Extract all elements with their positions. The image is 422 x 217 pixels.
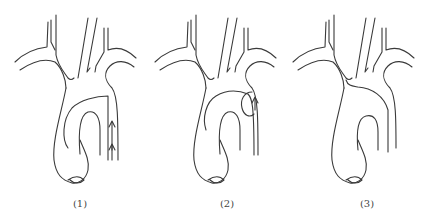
diagram-figure: (1) — [0, 0, 422, 217]
panel-2: (2) — [140, 0, 290, 217]
aortic-arch-drawing-3 — [280, 0, 422, 217]
panel-label-2: (2) — [207, 198, 247, 209]
panel-label-3: (3) — [347, 198, 387, 209]
panel-3: (3) — [280, 0, 422, 217]
aortic-arch-drawing-1 — [0, 0, 150, 217]
panel-1: (1) — [0, 0, 150, 217]
panel-label-1: (1) — [60, 198, 100, 209]
aortic-arch-drawing-2 — [140, 0, 290, 217]
